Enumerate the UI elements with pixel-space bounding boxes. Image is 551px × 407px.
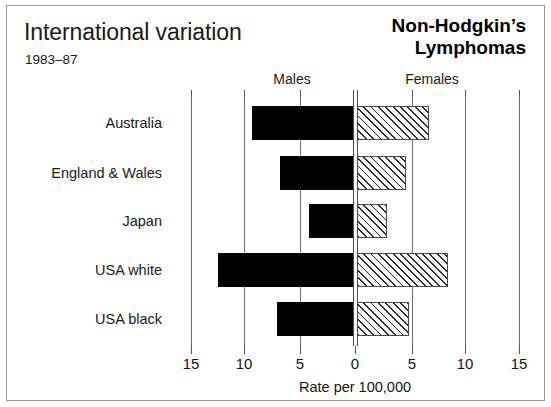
disease-title-line1: Non-Hodgkin’s (392, 15, 526, 36)
x-axis-title: Rate per 100,000 (299, 379, 411, 395)
ticklabel-right-5: 5 (408, 355, 416, 372)
tick-bottom-right-15 (519, 346, 520, 354)
category-label-japan: Japan (122, 213, 162, 229)
ticklabel-left-15: 15 (183, 355, 200, 372)
tick-bottom-right-5 (412, 346, 413, 354)
category-label-australia: Australia (106, 115, 162, 131)
tick-top-left-15 (191, 90, 192, 97)
tick-bottom-zero (355, 346, 356, 354)
sex-header-males: Males (273, 71, 310, 87)
chart-frame: International variation 1983–87 Non-Hodg… (6, 5, 545, 401)
ticklabel-right-10: 10 (457, 355, 474, 372)
tick-bottom-left-5 (300, 346, 301, 354)
page-title: International variation (24, 19, 242, 46)
bar-japan-males (309, 204, 354, 238)
category-label-usa-white: USA white (95, 262, 162, 278)
bar-usa-black-males (277, 302, 354, 336)
tick-top-zero-b (357, 90, 358, 97)
ticklabel-right-15: 15 (511, 355, 528, 372)
disease-title-line2: Lymphomas (286, 37, 526, 59)
gridline-left-15 (191, 96, 192, 346)
tick-bottom-left-15 (191, 346, 192, 354)
bar-england-wales-males (280, 156, 353, 190)
gridline-left-10 (244, 96, 245, 346)
bar-usa-white-females (357, 253, 449, 287)
tick-bottom-left-10 (244, 346, 245, 354)
bar-japan-females (357, 204, 388, 238)
tick-top-right-15 (519, 90, 520, 97)
gridline-right-15 (519, 96, 520, 346)
category-label-england-wales: England & Wales (51, 165, 162, 181)
ticklabel-left-10: 10 (236, 355, 253, 372)
category-label-usa-black: USA black (95, 311, 162, 327)
title-period: 1983–87 (25, 52, 78, 67)
bar-australia-females (357, 106, 429, 140)
tick-top-left-5 (300, 90, 301, 97)
chart-figure: International variation 1983–87 Non-Hodg… (0, 0, 551, 407)
ticklabel-zero: 0 (351, 355, 359, 372)
tick-top-right-5 (412, 90, 413, 97)
tick-top-zero-a (353, 90, 354, 97)
bar-australia-males (252, 106, 354, 140)
tick-top-right-10 (465, 90, 466, 97)
sex-header-females: Females (405, 71, 459, 87)
disease-title: Non-Hodgkin’s Lymphomas (286, 15, 526, 59)
tick-bottom-right-10 (465, 346, 466, 354)
gridline-right-10 (465, 96, 466, 346)
bar-usa-white-males (218, 253, 354, 287)
tick-top-left-10 (244, 90, 245, 97)
ticklabel-left-5: 5 (296, 355, 304, 372)
bar-england-wales-females (357, 156, 406, 190)
bar-usa-black-females (357, 302, 409, 336)
